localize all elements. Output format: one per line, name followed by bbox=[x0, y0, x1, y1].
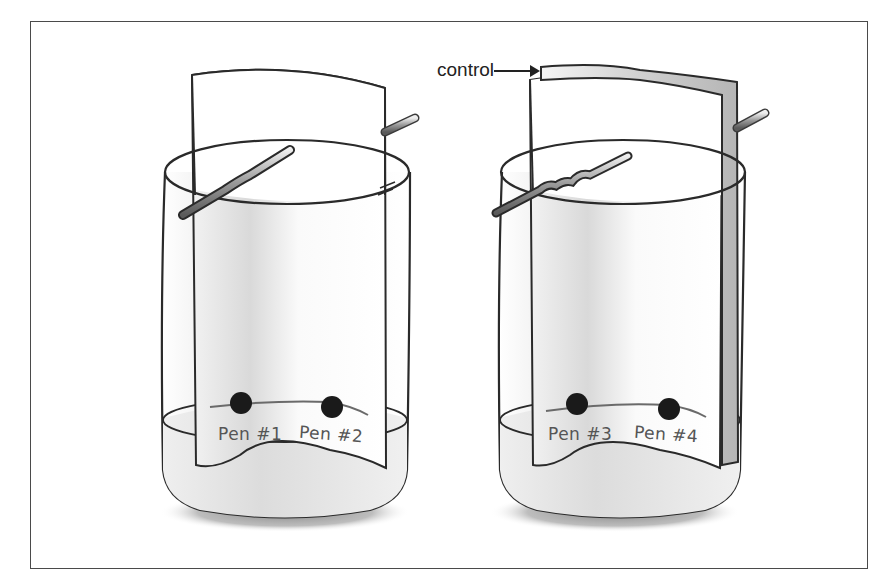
control-callout-arrow bbox=[494, 65, 540, 77]
right-jar bbox=[490, 65, 765, 532]
control-callout-label: control bbox=[437, 59, 494, 81]
ink-dot-pen4 bbox=[658, 398, 680, 420]
ink-dot-pen1 bbox=[230, 392, 252, 414]
left-jar bbox=[160, 70, 415, 532]
pen-label-1: Pen #1 bbox=[218, 424, 282, 444]
ink-dot-pen2 bbox=[321, 396, 343, 418]
pen-label-3: Pen #3 bbox=[548, 424, 612, 444]
ink-dot-pen3 bbox=[566, 393, 588, 415]
chromatography-illustration bbox=[0, 0, 891, 588]
